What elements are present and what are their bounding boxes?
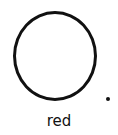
circle-shape [13,11,97,101]
word-label: red [0,112,118,130]
dot-mark [106,97,110,101]
